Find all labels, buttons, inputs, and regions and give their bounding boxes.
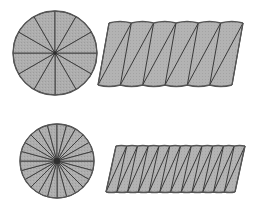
panel-bottom-left-circle xyxy=(20,124,94,198)
strip-top-edge xyxy=(109,22,243,24)
strip-top-edge xyxy=(116,146,245,147)
panel-top-left-circle xyxy=(13,11,97,95)
geometry-diagram xyxy=(0,0,260,217)
panel-top-right-parallelogram xyxy=(98,22,243,87)
circle-center-hub xyxy=(53,51,57,55)
circle-center-hub xyxy=(54,158,60,164)
panel-bottom-right-parallelogram xyxy=(106,146,245,193)
strip-bottom-edge xyxy=(98,85,232,87)
strip-bottom-edge xyxy=(106,192,235,193)
diagram-root xyxy=(0,0,260,217)
